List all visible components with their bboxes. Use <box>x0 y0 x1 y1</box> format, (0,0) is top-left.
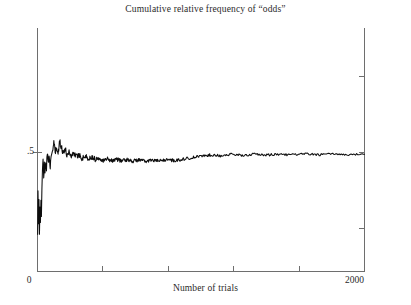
figure-container: Cumulative relative frequency of “odds” … <box>0 0 411 305</box>
data-series-line <box>38 140 365 235</box>
x-axis-label: Number of trials <box>0 283 411 293</box>
plot-area <box>0 0 411 305</box>
y-tick-label-half: .5 <box>16 146 34 156</box>
